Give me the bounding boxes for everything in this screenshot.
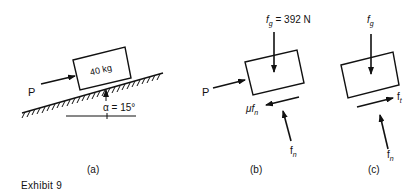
panel-b	[213, 32, 304, 141]
exhibit-title: Exhibit 9	[21, 181, 62, 191]
friction-label: μfn	[246, 104, 258, 116]
normal-force-arrow-icon	[380, 115, 388, 149]
force-p-arrow-icon	[41, 76, 75, 84]
diagram-canvas	[0, 0, 420, 196]
force-p-arrow-icon	[213, 80, 245, 88]
weight-label-sub: g	[370, 20, 374, 27]
caption-b: (b)	[250, 165, 262, 175]
normal-force-label: fn	[290, 146, 297, 158]
weight-label: fg	[367, 15, 374, 27]
friction-label: ft	[397, 92, 402, 104]
panel-a	[22, 47, 163, 119]
block-c	[341, 52, 399, 98]
angle-label: α = 15°	[103, 103, 135, 113]
normal-force-label: fn	[387, 150, 394, 162]
panel-c	[341, 34, 399, 149]
normal-label-sub: n	[293, 151, 297, 158]
normal-force-arrow-icon	[283, 111, 291, 141]
weight-label-value: = 392 N	[273, 14, 311, 25]
friction-arrow-icon	[266, 97, 299, 105]
caption-c: (c)	[368, 165, 380, 175]
friction-label-sub: t	[400, 97, 402, 104]
caption-a: (a)	[87, 165, 99, 175]
weight-label: fg = 392 N	[266, 15, 311, 27]
friction-label-sub: n	[254, 109, 258, 116]
force-p-label: P	[202, 87, 209, 98]
normal-label-sub: n	[390, 155, 394, 162]
force-p-label: P	[28, 87, 35, 98]
friction-arrow-icon	[357, 98, 393, 107]
